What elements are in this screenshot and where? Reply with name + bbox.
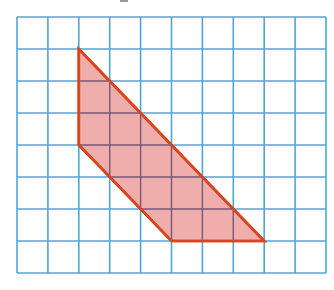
grid-diagram	[0, 0, 334, 290]
